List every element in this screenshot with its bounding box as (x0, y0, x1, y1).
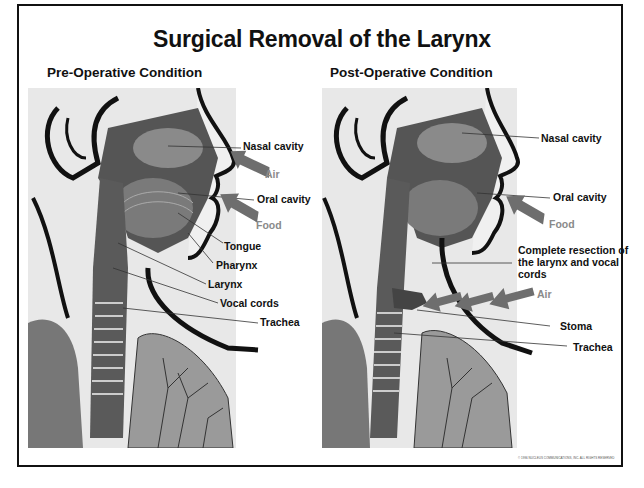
label-food: Food (549, 218, 575, 230)
label-air: Air (537, 288, 552, 300)
label-nasal-cavity: Nasal cavity (541, 132, 602, 144)
label-larynx: Larynx (208, 278, 242, 290)
page-title: Surgical Removal of the Larynx (0, 26, 644, 53)
label-trachea: Trachea (573, 341, 613, 353)
label-stoma: Stoma (560, 320, 592, 332)
pre-op-illustration: Nasal cavity Air Oral cavity Food Tongue… (28, 88, 313, 448)
label-oral-cavity: Oral cavity (553, 191, 607, 203)
post-op-heading: Post-Operative Condition (330, 65, 493, 80)
label-resection: Complete resection of the larynx and voc… (518, 244, 638, 280)
pre-op-heading: Pre-Operative Condition (47, 65, 202, 80)
label-trachea: Trachea (260, 316, 300, 328)
label-oral-cavity: Oral cavity (257, 193, 311, 205)
label-pharynx: Pharynx (216, 259, 257, 271)
label-vocal-cords: Vocal cords (220, 297, 279, 309)
label-air: Air (265, 168, 280, 180)
label-nasal-cavity: Nasal cavity (243, 140, 304, 152)
post-op-illustration: Nasal cavity Oral cavity Food Complete r… (322, 88, 622, 448)
copyright-notice: © 1996 NUCLEUS COMMUNICATIONS, INC. ALL … (518, 456, 615, 460)
label-tongue: Tongue (224, 240, 261, 252)
label-food: Food (256, 219, 282, 231)
